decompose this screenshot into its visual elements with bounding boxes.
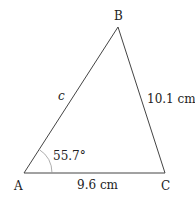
angle-a-arc (39, 150, 52, 174)
vertex-label-c: C (161, 179, 170, 193)
triangle-diagram: A B C c 10.1 cm 9.6 cm 55.7° (0, 0, 195, 199)
vertex-label-a: A (13, 179, 23, 193)
side-label-ac: 9.6 cm (77, 178, 119, 192)
triangle-abc (24, 27, 165, 173)
vertex-label-b: B (114, 9, 123, 23)
side-label-bc: 10.1 cm (147, 92, 195, 106)
side-label-c: c (58, 89, 65, 103)
angle-a-label: 55.7° (53, 149, 86, 163)
